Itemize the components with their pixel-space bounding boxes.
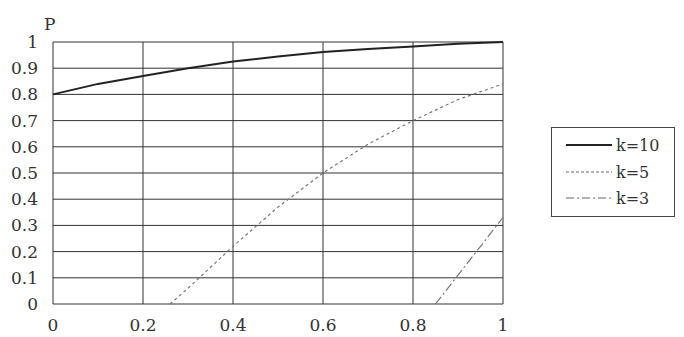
chart-grid	[53, 42, 503, 304]
series-k-5	[170, 84, 503, 304]
x-tick-label: 0.4	[219, 315, 246, 335]
y-tick-label: 0.1	[11, 268, 38, 288]
y-tick-label: 0	[27, 294, 38, 314]
y-tick-label: 0.8	[11, 84, 38, 104]
y-tick-label: 0.9	[11, 58, 38, 78]
legend-item-k5: k=5	[566, 162, 649, 182]
y-tick-label: 0.5	[11, 163, 38, 183]
y-tick-label: 0.6	[11, 137, 38, 157]
dashdot-line-icon	[566, 195, 612, 201]
y-tick-label: 0.7	[11, 111, 38, 131]
x-tick-label: 1	[498, 315, 509, 335]
legend-item-k10: k=10	[566, 135, 659, 155]
x-tick-label: 0.2	[129, 315, 156, 335]
dashed-line-icon	[566, 169, 612, 175]
y-tick-label: 0.3	[11, 215, 38, 235]
chart-legend: k=10 k=5 k=3	[551, 127, 675, 217]
x-tick-label: 0	[48, 315, 59, 335]
y-tick-label: 0.4	[11, 189, 38, 209]
solid-line-icon	[566, 142, 612, 148]
y-tick-label: 0.2	[11, 242, 38, 262]
x-tick-label: 0.8	[399, 315, 426, 335]
y-axis-label: P	[44, 14, 55, 34]
legend-label: k=10	[616, 136, 659, 155]
legend-label: k=5	[616, 163, 649, 182]
y-tick-label: 1	[27, 32, 38, 52]
legend-item-k3: k=3	[566, 188, 649, 208]
legend-label: k=3	[616, 189, 649, 208]
series-k-3	[436, 218, 504, 305]
axis-labels: 00.10.20.30.40.50.60.70.80.9100.20.40.60…	[11, 14, 508, 335]
x-tick-label: 0.6	[309, 315, 336, 335]
